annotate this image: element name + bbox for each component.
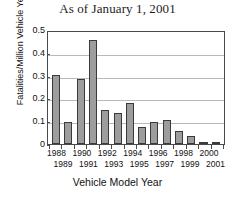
- x-axis-tick-label: 1989: [54, 159, 73, 169]
- bar: [212, 142, 220, 144]
- bar: [114, 113, 122, 144]
- bar-cell: [136, 32, 148, 144]
- bar: [126, 103, 134, 144]
- bar: [77, 79, 85, 144]
- bar: [163, 120, 171, 144]
- bar-cell: [197, 32, 209, 144]
- plot-area: [47, 31, 225, 145]
- bar-series: [48, 32, 224, 144]
- y-axis-tick-mark: [47, 99, 50, 100]
- bar-cell: [185, 32, 197, 144]
- x-axis-tick-label: 1988: [47, 148, 66, 158]
- bar-cell: [148, 32, 160, 144]
- y-axis-tick-mark: [47, 31, 50, 32]
- bar-cell: [173, 32, 185, 144]
- x-axis-tick-label: 1990: [72, 148, 91, 158]
- y-axis-tick-label: 0.4: [21, 49, 45, 58]
- bar-cell: [210, 32, 222, 144]
- bar-cell: [124, 32, 136, 144]
- x-axis-tick-label: 1993: [104, 159, 123, 169]
- y-axis-tick-label: 0.1: [21, 117, 45, 126]
- bar: [101, 110, 109, 144]
- x-axis-tick-label: 1996: [149, 148, 168, 158]
- y-axis-tick-mark: [47, 54, 50, 55]
- x-axis-tick-label: 2001: [206, 159, 225, 169]
- bar: [187, 136, 195, 144]
- x-axis-tick-label: 1999: [181, 159, 200, 169]
- x-axis-tick-label: 1991: [79, 159, 98, 169]
- bar-cell: [62, 32, 74, 144]
- bar-cell: [161, 32, 173, 144]
- bar: [64, 122, 72, 144]
- bar: [138, 127, 146, 144]
- bar: [52, 75, 60, 144]
- y-axis-tick-label: 0.5: [21, 26, 45, 35]
- x-axis-tick-label: 1995: [130, 159, 149, 169]
- x-axis-labels-even-years: 1988.1990.1992.1994.1996.1998.2000.: [47, 148, 225, 158]
- x-axis-tick-label: 2000: [200, 148, 219, 158]
- bar-cell: [99, 32, 111, 144]
- x-axis-tick-label: 1992: [98, 148, 117, 158]
- x-axis-tick-label: 1994: [123, 148, 142, 158]
- x-axis-tick-label: 1997: [155, 159, 174, 169]
- chart-figure: ___ ______ __ ____ As of January 1, 2001…: [0, 0, 235, 201]
- x-axis-tick-labels: 1988.1990.1992.1994.1996.1998.2000. .198…: [47, 148, 225, 172]
- bar: [150, 122, 158, 144]
- y-axis-tick-mark: [47, 77, 50, 78]
- y-axis-tick-mark: [47, 122, 50, 123]
- bar-cell: [87, 32, 99, 144]
- bar-cell: [50, 32, 62, 144]
- bar: [175, 131, 183, 144]
- bar: [89, 40, 97, 144]
- bar: [199, 142, 207, 144]
- bar-cell: [111, 32, 123, 144]
- y-axis-tick-label: 0.2: [21, 94, 45, 103]
- x-axis-title: Vehicle Model Year: [0, 176, 235, 188]
- x-axis-labels-odd-years: .1989.1991.1993.1995.1997.1999.2001: [47, 159, 225, 169]
- x-axis-tick-label: 1998: [174, 148, 193, 158]
- y-axis-tick-label: 0.3: [21, 72, 45, 81]
- bar-cell: [75, 32, 87, 144]
- chart-title: As of January 1, 2001: [0, 1, 235, 17]
- y-axis-tick-labels: 00.10.20.30.40.5: [19, 31, 45, 145]
- y-axis-tick-label: 0: [21, 140, 45, 149]
